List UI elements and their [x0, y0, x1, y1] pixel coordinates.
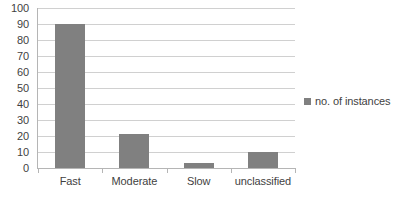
- y-tick-label: 40: [17, 99, 29, 110]
- bar-slot: [102, 8, 166, 168]
- y-tick-label: 0: [23, 163, 29, 174]
- y-tick-label: 60: [17, 67, 29, 78]
- x-axis-labels: FastModerateSlowunclassified: [38, 175, 295, 191]
- y-tick-label: 10: [17, 147, 29, 158]
- bar-slot: [38, 8, 102, 168]
- y-tick-label: 30: [17, 115, 29, 126]
- plot-wrapper: 1009080706050403020100 FastModerateSlowu…: [0, 0, 300, 180]
- y-tick-label: 80: [17, 35, 29, 46]
- y-axis: 1009080706050403020100: [0, 0, 33, 180]
- x-tick: [167, 168, 168, 173]
- legend-swatch-icon: [304, 98, 311, 105]
- y-tick-label: 20: [17, 131, 29, 142]
- bar: [119, 134, 149, 168]
- bar-chart: 1009080706050403020100 FastModerateSlowu…: [0, 0, 399, 210]
- x-axis-label: Fast: [38, 175, 102, 191]
- x-tick: [38, 168, 39, 173]
- bar: [248, 152, 278, 168]
- bar-slot: [167, 8, 231, 168]
- bar-slot: [231, 8, 295, 168]
- y-tick-label: 100: [11, 3, 29, 14]
- y-tick-label: 50: [17, 83, 29, 94]
- x-axis-label: Slow: [167, 175, 231, 191]
- x-tick: [231, 168, 232, 173]
- y-tick-label: 70: [17, 51, 29, 62]
- x-axis-label: Moderate: [102, 175, 166, 191]
- x-tick: [102, 168, 103, 173]
- x-tick: [295, 168, 296, 173]
- clipped-caption: [40, 200, 340, 210]
- x-axis-label: unclassified: [231, 175, 295, 191]
- legend-label: no. of instances: [315, 95, 390, 107]
- bar-series-no-of-instances: [38, 8, 295, 168]
- y-tick-label: 90: [17, 19, 29, 30]
- legend: no. of instances: [304, 95, 390, 107]
- bar: [55, 24, 85, 168]
- x-axis-ticks: [38, 168, 295, 173]
- plot-area: [38, 8, 295, 168]
